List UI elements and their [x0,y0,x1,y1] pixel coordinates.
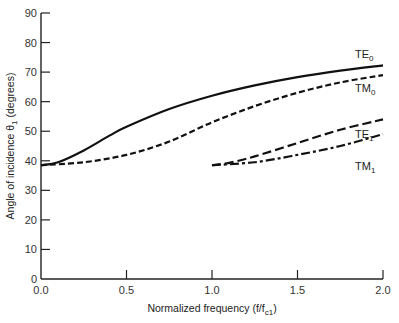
y-tick-label: 40 [25,155,37,167]
series-label-tm1: TM1 [355,160,376,175]
x-tick-label: 2.0 [375,284,390,296]
y-tick-label: 50 [25,125,37,137]
y-tick-label: 10 [25,243,37,255]
y-axis-label: Angle of incidence θ1 (degrees) [4,73,19,220]
y-tick-label: 30 [25,184,37,196]
series-line-tm0 [41,75,383,165]
x-tick-label: 0.5 [119,284,134,296]
x-axis-label: Normalized frequency (f/fc1) [147,302,276,317]
series-group [41,65,383,165]
y-tick-label: 60 [25,96,37,108]
y-tick-label: 20 [25,214,37,226]
x-tick-label: 0.0 [33,284,48,296]
x-tick-label: 1.0 [204,284,219,296]
x-tick-label: 1.5 [290,284,305,296]
chart: 01020304050607080900.00.51.01.52.0 TE0TM… [0,0,399,323]
series-line-te0 [41,65,383,165]
y-tick-label: 80 [25,37,37,49]
series-label-te0: TE0 [355,48,374,63]
y-tick-label: 90 [25,7,37,19]
series-label-tm0: TM0 [355,82,376,97]
y-tick-label: 70 [25,66,37,78]
